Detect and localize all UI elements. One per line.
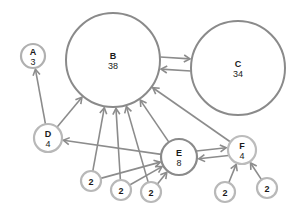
edge-n2-to-B (113, 108, 121, 180)
edge-D-to-B (57, 97, 82, 127)
edge-E-to-F (196, 145, 226, 152)
node-n5: 2 (257, 178, 277, 198)
node-value: 8 (176, 158, 181, 168)
node-value: 2 (264, 184, 269, 194)
edge-n1-to-E (101, 160, 161, 178)
edge-C-to-B (161, 66, 191, 73)
node-label: C (235, 59, 242, 69)
node-label: D (45, 129, 52, 139)
edge-F-to-E (199, 155, 229, 162)
node-n4: 2 (215, 182, 235, 202)
node-F: F4 (228, 136, 256, 164)
edge-E-to-B (140, 100, 169, 142)
node-value: 2 (88, 177, 93, 187)
node-label: E (176, 148, 182, 158)
node-C: C34 (191, 21, 285, 115)
edge-n1-to-B (93, 108, 107, 171)
node-B: B38 (66, 13, 160, 107)
node-value: 4 (45, 139, 50, 149)
edge-n5-to-F (251, 163, 262, 180)
edge-D-to-A (33, 69, 45, 124)
node-value: 2 (118, 186, 123, 196)
node-value: 2 (222, 188, 227, 198)
node-label: F (239, 141, 245, 151)
directed-graph-diagram: A3B38C34D4E8F422222 (0, 0, 304, 219)
node-value: 4 (239, 151, 244, 161)
node-n2: 2 (111, 180, 131, 200)
edge-E-to-D (63, 138, 161, 155)
node-E: E8 (161, 139, 197, 175)
edge-n4-to-F (229, 164, 237, 182)
node-D: D4 (34, 124, 62, 152)
edge-n3-to-E (157, 172, 167, 184)
nodes-layer: A3B38C34D4E8F422222 (21, 13, 285, 202)
node-n3: 2 (141, 182, 161, 202)
node-label: A (30, 47, 37, 57)
node-n1: 2 (81, 171, 101, 191)
node-value: 3 (30, 57, 35, 67)
node-value: 38 (108, 61, 118, 71)
node-value: 34 (233, 69, 243, 79)
node-A: A3 (21, 44, 45, 68)
node-label: B (110, 51, 117, 61)
node-value: 2 (148, 188, 153, 198)
edge-B-to-C (160, 55, 190, 62)
